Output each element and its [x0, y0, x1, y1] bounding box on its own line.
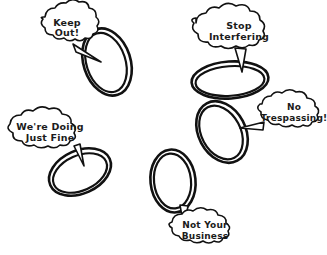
bubble-text-were-doing-just-fine-line2: Just Fine [25, 132, 75, 143]
ring-lower-right [186, 92, 258, 171]
ring-middle-right [190, 59, 269, 101]
speech-bubble-keep-out: Keep Out! [41, 0, 101, 62]
bubble-text-stop-interfering-line1: Stop [226, 20, 252, 31]
speech-bubble-no-trespassing: No Trespassing! [240, 90, 327, 130]
cartoon-canvas: Keep Out! Stop Interfering No Trespassin… [0, 0, 327, 255]
bubble-tail-stop-interfering [235, 48, 246, 72]
speech-bubble-not-your-business: Not Your Business [169, 205, 230, 243]
bubble-text-no-trespassing-line1: No [287, 102, 301, 112]
scene-illustration: Keep Out! Stop Interfering No Trespassin… [0, 0, 327, 255]
bubble-text-not-your-business-line2: Business [182, 231, 229, 241]
bubble-text-not-your-business-line1: Not Your [182, 220, 228, 230]
bubble-text-no-trespassing-line2: Trespassing! [261, 113, 327, 123]
bubble-text-stop-interfering-line2: Interfering [209, 31, 269, 42]
bubble-text-keep-out-line2: Out! [55, 27, 80, 38]
bubble-text-were-doing-just-fine-line1: We're Doing [16, 121, 83, 132]
ring-bottom-center [147, 147, 198, 214]
